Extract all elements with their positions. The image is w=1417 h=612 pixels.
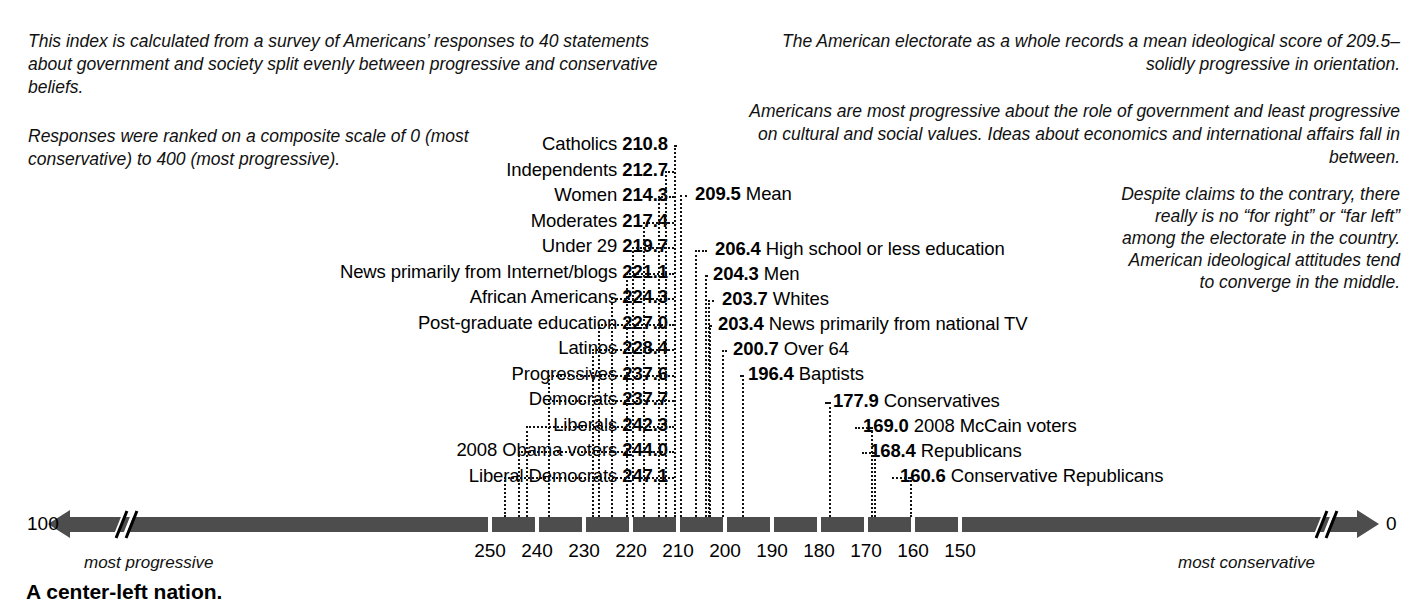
axis-right-value: 0: [1386, 513, 1397, 535]
row-score-value: 237.6: [622, 363, 668, 384]
axis-tick: [582, 517, 586, 532]
row-score-value: 227.0: [622, 312, 668, 333]
data-row-right: 200.7 Over 64: [733, 338, 849, 360]
row-group-name: Baptists: [794, 363, 864, 384]
data-row-left: Post-graduate education 227.0: [0, 312, 668, 334]
axis-tick: [535, 517, 539, 532]
data-row-right: 204.3 Men: [713, 263, 800, 285]
axis-tick-label: 190: [756, 540, 788, 562]
row-group-name: News primarily from Internet/blogs: [340, 261, 622, 282]
data-row-left: News primarily from Internet/blogs 221.1: [0, 261, 668, 283]
axis-tick: [676, 517, 680, 532]
axis-tick-label: 240: [521, 540, 553, 562]
row-score-value: 168.4: [870, 440, 916, 461]
row-group-name: Democrats: [529, 388, 623, 409]
data-row-left: Catholics 210.8: [0, 133, 668, 155]
row-score-value: 242.3: [622, 414, 668, 435]
data-row-left: Women 214.3: [0, 184, 668, 206]
axis-tick: [488, 517, 492, 532]
row-group-name: Mean: [741, 183, 792, 204]
axis-tick-label: 200: [709, 540, 741, 562]
row-score-value: 169.0: [863, 415, 909, 436]
row-score-value: 203.7: [722, 288, 768, 309]
row-score-value: 203.4: [718, 313, 764, 334]
row-score-value: 196.4: [748, 363, 794, 384]
data-row-left: Progressives 237.6: [0, 363, 668, 385]
data-row-left: Latinos 228.4: [0, 337, 668, 359]
row-group-name: Liberals: [553, 414, 622, 435]
row-group-name: Under 29: [542, 235, 622, 256]
infographic-canvas: This index is calculated from a survey o…: [0, 0, 1417, 612]
row-score-value: 228.4: [622, 337, 668, 358]
axis-caption-conservative: most conservative: [1178, 553, 1315, 573]
row-group-name: Over 64: [779, 338, 849, 359]
row-score-value: 224.3: [622, 286, 668, 307]
axis-tick-label: 230: [568, 540, 600, 562]
data-row-right: 203.4 News primarily from national TV: [718, 313, 1028, 335]
row-score-value: 244.0: [622, 439, 668, 460]
axis-tick-label: 170: [850, 540, 882, 562]
data-row-left: Moderates 217.4: [0, 210, 668, 232]
row-group-name: Moderates: [531, 210, 623, 231]
axis-tick: [723, 517, 727, 532]
data-row-right: 169.0 2008 McCain voters: [863, 415, 1077, 437]
row-group-name: Progressives: [511, 363, 622, 384]
row-group-name: Republicans: [916, 440, 1022, 461]
row-score-value: 210.8: [622, 133, 668, 154]
data-row-right: 160.6 Conservative Republicans: [900, 465, 1163, 487]
data-row-right: 209.5 Mean: [695, 183, 792, 205]
row-score-value: 177.9: [833, 390, 879, 411]
row-score-value: 206.4: [715, 238, 761, 259]
row-score-value: 221.1: [622, 261, 668, 282]
row-group-name: Liberal Democrats: [469, 465, 622, 486]
data-row-left: Liberals 242.3: [0, 414, 668, 436]
row-group-name: Conservatives: [879, 390, 1000, 411]
data-row-left: Under 29 219.7: [0, 235, 668, 257]
note-issue-areas: Americans are most progressive about the…: [740, 100, 1400, 169]
axis-tick-label: 210: [662, 540, 694, 562]
row-group-name: High school or less education: [761, 238, 1005, 259]
data-row-right: 203.7 Whites: [722, 288, 829, 310]
row-group-name: Women: [554, 184, 622, 205]
row-group-name: Conservative Republicans: [946, 465, 1164, 486]
row-group-name: Whites: [768, 288, 829, 309]
note-mean-score: The American electorate as a whole recor…: [740, 30, 1400, 76]
row-group-name: Catholics: [542, 133, 622, 154]
row-score-value: 247.1: [622, 465, 668, 486]
axis-arrow-right-icon: [1357, 510, 1379, 538]
row-score-value: 160.6: [900, 465, 946, 486]
note-intro: This index is calculated from a survey o…: [28, 30, 668, 99]
axis-tick: [629, 517, 633, 532]
axis-tick: [958, 517, 962, 532]
data-row-right: 177.9 Conservatives: [833, 390, 1000, 412]
row-score-value: 217.4: [622, 210, 668, 231]
row-group-name: 2008 Obama voters: [456, 439, 622, 460]
row-group-name: Men: [759, 263, 800, 284]
row-score-value: 237.7: [622, 388, 668, 409]
axis-tick-label: 250: [474, 540, 506, 562]
row-group-name: Independents: [506, 159, 622, 180]
data-row-left: African Americans 224.3: [0, 286, 668, 308]
axis-left-value: 100: [27, 513, 59, 535]
data-row-right: 206.4 High school or less education: [715, 238, 1005, 260]
data-row-right: 196.4 Baptists: [748, 363, 864, 385]
row-score-value: 212.7: [622, 159, 668, 180]
axis-tick-label: 220: [615, 540, 647, 562]
row-group-name: Latinos: [558, 337, 622, 358]
row-group-name: Post-graduate education: [418, 312, 622, 333]
row-score-value: 200.7: [733, 338, 779, 359]
axis-tick-label: 160: [897, 540, 929, 562]
axis-caption-progressive: most progressive: [84, 553, 213, 573]
row-score-value: 214.3: [622, 184, 668, 205]
axis-tick: [770, 517, 774, 532]
axis-tick: [864, 517, 868, 532]
row-group-name: 2008 McCain voters: [909, 415, 1077, 436]
row-group-name: News primarily from national TV: [764, 313, 1028, 334]
data-row-left: 2008 Obama voters 244.0: [0, 439, 668, 461]
row-group-name: African Americans: [470, 286, 622, 307]
data-row-left: Liberal Democrats 247.1: [0, 465, 668, 487]
axis-tick-label: 150: [944, 540, 976, 562]
data-row-left: Independents 212.7: [0, 159, 668, 181]
axis-tick: [817, 517, 821, 532]
note-converge: Despite claims to the contrary, there re…: [1118, 183, 1400, 293]
